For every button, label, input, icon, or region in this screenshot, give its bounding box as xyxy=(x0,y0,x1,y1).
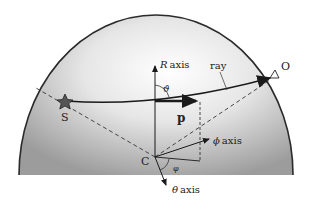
ray-label: ray xyxy=(210,60,227,71)
observer-triangle-icon xyxy=(270,70,279,78)
phi-axis-label: ϕaxis xyxy=(213,135,242,146)
phi-angle-label: φ xyxy=(173,164,179,173)
theta-angle-label: ϑ xyxy=(163,84,170,94)
theta-axis-label: θaxis xyxy=(172,184,200,195)
center-label: C xyxy=(141,155,149,168)
observer-label: O xyxy=(281,60,290,73)
momentum-label: p xyxy=(177,111,185,125)
source-label: S xyxy=(61,111,69,124)
celestial-dome-diagram: Raxis ϑ ray p ϕaxis θaxis φ C S O xyxy=(0,0,309,205)
r-axis-label: Raxis xyxy=(159,59,189,70)
hemisphere-dome xyxy=(19,15,293,175)
